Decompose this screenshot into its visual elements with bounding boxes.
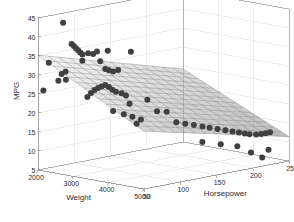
data-point (40, 88, 46, 94)
data-point (60, 20, 66, 26)
data-point (253, 132, 259, 138)
data-point (234, 143, 240, 149)
data-point (173, 119, 179, 125)
z-tick-label: 25 (28, 91, 36, 98)
data-point (123, 92, 129, 98)
data-point (105, 48, 111, 54)
data-point (218, 141, 224, 147)
data-point (97, 58, 103, 64)
z-tick-label: 20 (28, 110, 36, 117)
data-point (128, 49, 134, 55)
z-tick-label: 40 (28, 34, 36, 41)
data-point (207, 125, 213, 131)
data-point (259, 155, 265, 161)
z-tick-label: 45 (28, 15, 36, 22)
y-tick-label: 150 (214, 179, 226, 186)
data-point (63, 77, 69, 83)
chart-container: 5101520253035404520003000400050005010015… (0, 0, 294, 222)
data-point (138, 116, 144, 122)
data-point (222, 127, 228, 133)
z-tick-label: 10 (28, 148, 36, 155)
data-point (248, 149, 254, 155)
data-point (247, 131, 253, 137)
data-point (191, 122, 197, 128)
data-point (236, 130, 242, 136)
x-tick-label: 3000 (64, 180, 80, 187)
data-point (121, 111, 127, 117)
data-point (55, 78, 61, 84)
data-point (85, 50, 91, 56)
data-point (115, 67, 121, 73)
y-axis-label: Horsepower (204, 189, 247, 198)
y-tick-label: 250 (286, 165, 294, 172)
data-point (154, 108, 160, 114)
data-point (127, 101, 133, 107)
data-point (113, 89, 119, 95)
z-tick-label: 30 (28, 72, 36, 79)
x-tick-label: 2000 (28, 174, 44, 181)
data-point (267, 129, 273, 135)
data-point (215, 126, 221, 132)
data-point (199, 124, 205, 130)
y-tick-label: 200 (250, 172, 262, 179)
scatter3d-plot: 5101520253035404520003000400050005010015… (0, 0, 294, 222)
data-point (144, 97, 150, 103)
data-point (110, 108, 116, 114)
data-point (164, 109, 170, 115)
data-point (94, 49, 100, 55)
data-point (199, 139, 205, 145)
data-point (266, 147, 272, 153)
data-point (79, 58, 85, 64)
z-tick-label: 35 (28, 53, 36, 60)
data-point (59, 71, 65, 77)
data-point (134, 121, 140, 127)
data-point (230, 129, 236, 135)
z-tick-label: 15 (28, 129, 36, 136)
data-point (182, 121, 188, 127)
x-tick-label: 4000 (99, 186, 115, 193)
data-point (79, 52, 85, 58)
y-tick-label: 100 (177, 186, 189, 193)
data-point (129, 114, 135, 120)
data-point (46, 60, 52, 66)
y-tick-label: 50 (143, 193, 151, 200)
x-axis-label: Weight (66, 193, 92, 202)
z-axis-label: MPG (12, 82, 21, 100)
